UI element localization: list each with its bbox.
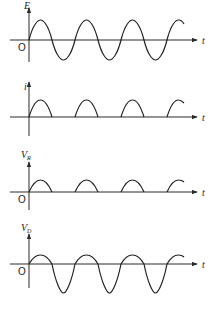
diode-voltage-curve [29, 255, 184, 293]
xlabel-vr: t [202, 187, 205, 198]
xlabel-vd: t [202, 259, 205, 270]
ylabel-vr: VR [21, 149, 31, 161]
origin-e: O [18, 42, 26, 53]
xlabel-e: t [202, 35, 205, 46]
panel-i: i t [10, 81, 205, 136]
panel-e: E t O [10, 0, 205, 62]
ylabel-vd: VD [21, 222, 32, 234]
ylabel-i: i [24, 81, 27, 92]
rectified-current-curve [29, 100, 184, 117]
resistor-voltage-curve [29, 180, 184, 192]
panel-vd: VD t O [10, 222, 205, 293]
xlabel-i: t [202, 112, 205, 123]
origin-vd: O [18, 266, 26, 277]
rectifier-waveform-diagram: E t O i t VR t O VD t O [0, 0, 215, 312]
panel-vr: VR t O [10, 149, 205, 210]
ylabel-e: E [23, 0, 30, 11]
origin-vr: O [18, 194, 26, 205]
